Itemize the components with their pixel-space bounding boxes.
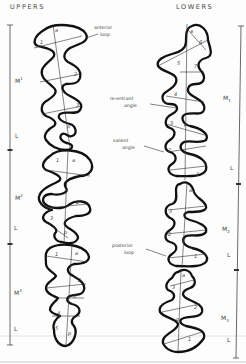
upper-m2-tooth: 1 a 2 3 p [39,150,92,244]
lower-m3-tooth: a 3 2 p 1 [160,270,205,352]
salient-angle-annotation: salient angle [113,138,164,152]
marker: a [55,27,58,33]
marker: a [182,272,185,278]
marker: 1 [40,39,43,45]
marker: p [67,330,71,337]
upper-m2-label: M2 [15,193,23,201]
marker: 1 [188,336,191,342]
lower-scale-bar: M1 L M2 L M3 L [221,26,244,358]
upper-m1-tooth: a 1 2 3 p [34,25,87,150]
marker: a [190,28,193,34]
molar-diagram: UPPERS LOWERS M1 L M2 L M3 L M1 L M2 L M… [0,0,246,364]
upper-l2-label: L [14,224,18,231]
marker: p [181,237,185,244]
svg-text:loop: loop [100,32,110,37]
lowers-header: LOWERS [176,3,213,11]
reentrant-angle-annotation: re-entrant angle [110,96,176,108]
lower-m2-label: M2 [222,225,230,234]
marker: 2 [78,277,81,283]
lower-m3-label: M3 [221,314,229,323]
marker: 6 [199,39,202,45]
marker: 1 [194,253,197,259]
marker: 2 [168,147,171,153]
marker: 1 [196,171,199,177]
marker: a [189,187,192,193]
marker: 3 [73,293,76,299]
marker: a [75,250,78,256]
marker: 5 [55,325,58,331]
svg-text:loop: loop [124,250,134,255]
svg-text:salient: salient [113,138,128,143]
posterior-loop-annotation: posterior loop [112,243,166,256]
uppers-header: UPPERS [10,3,45,11]
svg-text:angle: angle [122,145,135,150]
svg-text:posterior: posterior [112,243,133,248]
marker: 3 [76,102,79,108]
upper-m3-tooth: 1 a 2 3 4 5 p [46,244,89,346]
upper-m3-label: M3 [14,288,22,296]
marker: 4 [57,310,60,316]
marker: 4 [174,91,177,97]
anterior-loop-annotation: anterior loop [86,25,112,38]
marker: 3 [169,208,172,214]
upper-scale-bar: M1 L M2 L M3 L [7,25,23,345]
marker: 2 [168,231,171,237]
upper-l3-label: L [14,325,18,332]
marker: p [183,121,187,128]
svg-text:anterior: anterior [94,25,112,30]
marker: 3 [50,215,53,221]
marker: 5 [177,60,180,66]
marker: p [63,229,67,236]
marker: 3 [170,120,173,126]
lower-l1-label: L [230,164,234,171]
marker: 1 [56,157,59,163]
lower-l2-label: L [227,251,231,258]
diagram-canvas: UPPERS LOWERS M1 L M2 L M3 L M1 L M2 L M… [0,0,246,364]
marker: 3 [172,284,175,290]
lower-m1-tooth: a 6 5 7 4 3 p 2 1 [158,24,211,180]
marker: 2 [76,199,79,205]
svg-text:angle: angle [124,103,137,108]
svg-text:re-entrant: re-entrant [110,96,133,101]
lower-m2-tooth: a 3 2 p 1 [166,182,208,268]
lower-l3-label: L [227,336,231,343]
marker: a [72,157,75,163]
upper-l1-label: L [15,132,19,139]
marker: p [66,123,70,130]
marker: p [175,316,179,323]
marker: 2 [74,71,77,77]
lower-m1-label: M1 [223,94,231,103]
upper-m1-label: M1 [15,76,23,84]
marker: 2 [194,304,197,310]
marker: 1 [55,251,58,257]
